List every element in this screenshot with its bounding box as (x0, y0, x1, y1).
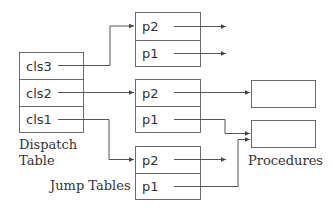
jump-table-2-row-p2: p2 (135, 79, 201, 107)
jump-table-3-row-p1: p1 (135, 173, 201, 200)
dispatch-table-label-line1: Dispatch (19, 137, 77, 153)
dispatch-row-label: cls3 (26, 60, 52, 73)
jump-row-label: p1 (142, 180, 159, 193)
dispatch-row-cls3: cls3 (19, 52, 84, 80)
dispatch-diagram: cls3 cls2 cls1 Dispatch Table p2 (0, 0, 333, 215)
dispatch-row-label: cls2 (26, 87, 52, 100)
procedures-label: Procedures (248, 153, 323, 169)
jump-table-1-row-p2: p2 (135, 12, 201, 41)
jump-row-label: p2 (142, 87, 159, 100)
dispatch-table-label: Dispatch Table (19, 137, 77, 169)
procedure-box-2 (251, 120, 316, 148)
dispatch-table-label-line2: Table (19, 153, 77, 169)
procedure-box-1 (251, 80, 316, 108)
dispatch-row-cls1: cls1 (19, 106, 84, 133)
jump-table-1-row-p1: p1 (135, 40, 201, 67)
jump-table-3-row-p2: p2 (135, 146, 201, 174)
jump-row-label: p1 (142, 113, 159, 126)
jump-row-label: p2 (142, 154, 159, 167)
jump-tables-label: Jump Tables (50, 178, 131, 194)
jump-table-2-row-p1: p1 (135, 106, 201, 133)
dispatch-row-cls2: cls2 (19, 79, 84, 107)
jump-row-label: p2 (142, 20, 159, 33)
jump-row-label: p1 (142, 47, 159, 60)
dispatch-row-label: cls1 (26, 113, 52, 126)
